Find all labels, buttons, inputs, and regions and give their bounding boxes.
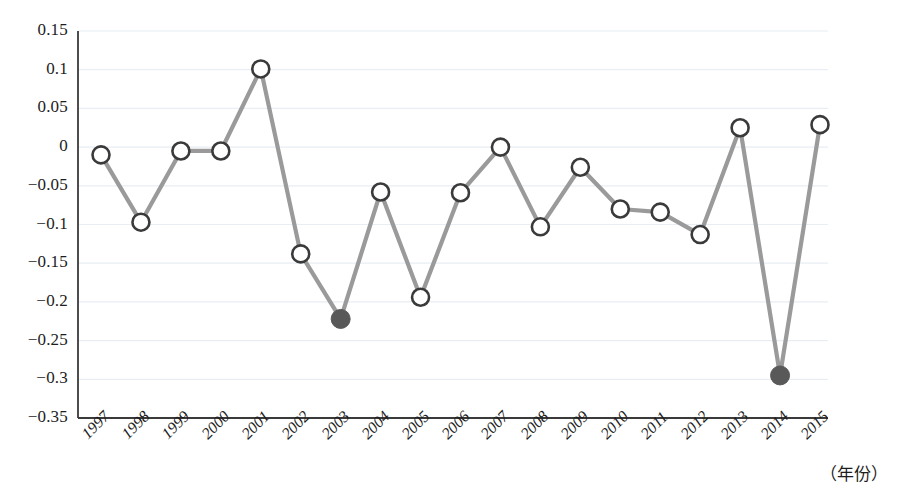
data-point	[372, 183, 389, 200]
y-axis-tick-label: 0	[0, 136, 68, 156]
data-point	[812, 116, 829, 133]
y-axis-tick-label: 0.1	[0, 59, 68, 79]
data-line	[101, 69, 820, 376]
data-point	[452, 184, 469, 201]
data-point	[732, 119, 749, 136]
data-point	[572, 159, 589, 176]
data-markers	[93, 60, 829, 385]
data-point	[652, 204, 669, 221]
y-axis-tick-label: −0.05	[0, 175, 68, 195]
data-point	[692, 226, 709, 243]
data-point	[132, 214, 149, 231]
line-chart: 0.150.10.050−0.05−0.1−0.15−0.2−0.25−0.3−…	[0, 0, 900, 501]
y-axis-tick-label: −0.15	[0, 252, 68, 272]
data-point	[412, 289, 429, 306]
data-point	[612, 201, 629, 218]
data-point	[172, 142, 189, 159]
y-axis-tick-label: −0.35	[0, 407, 68, 427]
data-point-highlighted	[331, 309, 350, 328]
data-point-highlighted	[771, 366, 790, 385]
y-axis-tick-label: 0.05	[0, 97, 68, 117]
y-axis-tick-label: −0.1	[0, 214, 68, 234]
data-point	[532, 218, 549, 235]
gridlines	[78, 31, 828, 379]
data-point	[492, 139, 509, 156]
y-axis-tick-label: −0.2	[0, 291, 68, 311]
y-axis-tick-label: −0.3	[0, 368, 68, 388]
y-axis-tick-label: 0.15	[0, 20, 68, 40]
data-point	[212, 142, 229, 159]
data-point	[93, 146, 110, 163]
y-axis-tick-label: −0.25	[0, 330, 68, 350]
data-point	[292, 245, 309, 262]
data-point	[252, 60, 269, 77]
x-axis-title: （年份）	[820, 460, 888, 485]
